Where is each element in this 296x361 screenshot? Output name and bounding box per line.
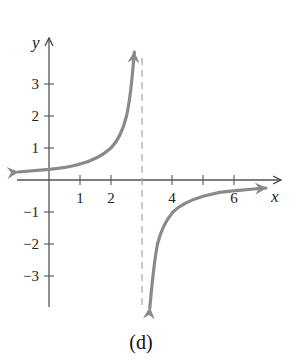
y-tick-label-neg1: −1 xyxy=(23,204,39,220)
x-axis-label: x xyxy=(270,187,279,206)
y-tick-label-neg3: −3 xyxy=(23,268,39,284)
y-tick-label-1: 1 xyxy=(32,140,40,156)
y-tick-label-2: 2 xyxy=(32,108,40,124)
x-tick-label-4: 4 xyxy=(168,190,176,206)
figure-caption: (d) xyxy=(0,331,282,354)
y-tick-label-3: 3 xyxy=(32,76,40,92)
rational-function-graph: 1 2 4 6 3 2 1 −1 −2 −3 x y xyxy=(0,0,296,361)
curve-right-branch xyxy=(150,188,266,308)
x-tick-label-2: 2 xyxy=(107,190,115,206)
y-tick-label-neg2: −2 xyxy=(23,236,39,252)
x-tick-label-1: 1 xyxy=(76,190,84,206)
y-axis-label: y xyxy=(30,33,40,52)
